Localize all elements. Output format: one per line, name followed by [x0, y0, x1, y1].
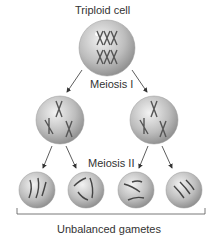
gamete-4: [166, 172, 202, 208]
gamete-2: [68, 172, 104, 208]
meiosis-diagram: [0, 0, 214, 237]
daughter-cell-left: [36, 96, 84, 144]
gametes-bracket: [17, 208, 205, 214]
daughter-cell-right: [130, 96, 178, 144]
gamete-3: [118, 172, 154, 208]
triploid-cell: [79, 20, 135, 76]
gamete-1: [19, 172, 55, 208]
